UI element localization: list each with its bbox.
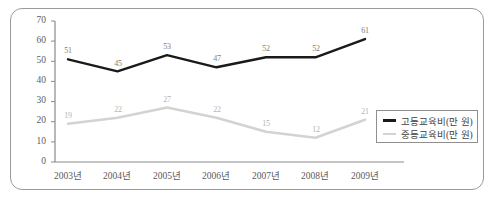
legend-swatch-line-icon xyxy=(383,133,396,135)
x-category-2007: 2007년 xyxy=(238,168,294,182)
x-category-2009: 2009년 xyxy=(337,168,393,182)
y-tick-40: 40 xyxy=(22,75,46,85)
data-label-high-2008: 52 xyxy=(305,44,327,53)
data-label-high-2007: 52 xyxy=(255,44,277,53)
chart-legend: 고등교육비(만 원) 중등교육비(만 원) xyxy=(376,110,478,143)
x-category-2006: 2006년 xyxy=(188,168,244,182)
y-tick-30: 30 xyxy=(22,95,46,105)
y-tick-50: 50 xyxy=(22,55,46,65)
data-label-high-2005: 53 xyxy=(156,42,178,51)
legend-item-mid: 중등교육비(만 원) xyxy=(383,127,477,140)
data-label-high-2003: 51 xyxy=(57,46,79,55)
data-label-high-2004: 45 xyxy=(107,59,129,68)
data-label-mid-2008: 12 xyxy=(305,125,327,134)
x-category-2003: 2003년 xyxy=(40,168,96,182)
data-label-high-2009: 61 xyxy=(354,26,376,35)
data-label-mid-2006: 22 xyxy=(206,105,228,114)
data-label-mid-2005: 27 xyxy=(156,95,178,104)
data-label-high-2006: 47 xyxy=(206,54,228,63)
chart-figure: 70 60 50 40 30 20 10 0 2003년 2004년 2005년… xyxy=(0,0,498,201)
legend-label-high: 고등교육비(만 원) xyxy=(401,114,473,128)
legend-swatch-line-icon xyxy=(383,119,396,122)
y-tick-20: 20 xyxy=(22,115,46,125)
y-tick-60: 60 xyxy=(22,35,46,45)
x-category-2008: 2008년 xyxy=(287,168,343,182)
data-label-mid-2004: 22 xyxy=(107,105,129,114)
data-label-mid-2009: 21 xyxy=(354,107,376,116)
x-category-2004: 2004년 xyxy=(89,168,145,182)
y-tick-10: 10 xyxy=(22,136,46,146)
axes xyxy=(51,21,404,162)
y-tick-0: 0 xyxy=(22,156,46,166)
data-label-mid-2003: 19 xyxy=(57,111,79,120)
legend-item-high: 고등교육비(만 원) xyxy=(383,114,477,127)
legend-label-mid: 중등교육비(만 원) xyxy=(401,127,473,141)
y-tick-70: 70 xyxy=(22,15,46,25)
data-label-mid-2007: 15 xyxy=(255,119,277,128)
x-category-2005: 2005년 xyxy=(139,168,195,182)
